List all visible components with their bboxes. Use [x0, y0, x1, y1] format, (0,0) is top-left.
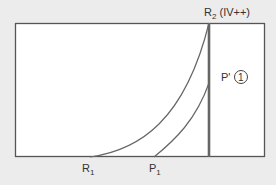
circled-number-text: 1 — [238, 72, 244, 83]
diagram-frame — [16, 24, 265, 157]
label-p1: P1 — [149, 162, 161, 177]
label-r1: R1 — [82, 162, 95, 177]
label-r2: R2 (IV++) — [204, 6, 250, 21]
diagram-canvas: R2 (IV++) P' 1 R1 P1 — [0, 0, 276, 185]
label-p-prime: P' — [221, 71, 230, 83]
